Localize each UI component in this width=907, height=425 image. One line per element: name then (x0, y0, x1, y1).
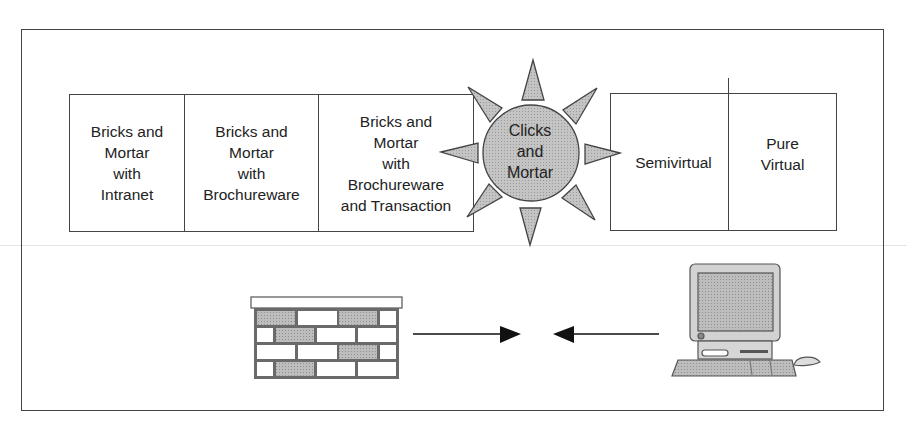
bottom-illustrations (0, 0, 907, 425)
brick-wall-icon (251, 297, 402, 379)
arrow-right-icon (413, 326, 521, 343)
computer-icon (672, 264, 820, 376)
arrow-left-icon (553, 326, 659, 343)
